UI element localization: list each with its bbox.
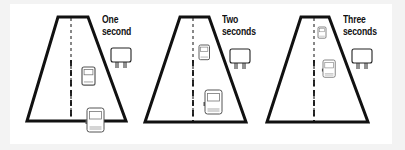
label-line-2: second <box>102 25 131 37</box>
label-line-2: seconds <box>222 25 256 37</box>
roadside-sign-icon <box>230 49 250 69</box>
lead-vehicle-icon <box>199 45 210 60</box>
following-vehicle-icon <box>86 108 105 132</box>
following-vehicle-icon <box>204 90 223 114</box>
label-line-1: Three <box>343 13 377 25</box>
lead-vehicle-icon <box>82 67 95 85</box>
label-line-1: Two <box>222 13 256 25</box>
roadside-sign-icon <box>111 48 131 68</box>
roadside-sign-icon <box>352 49 372 69</box>
lead-vehicle-icon <box>318 27 326 38</box>
label-line-1: One <box>102 13 131 25</box>
panel-label-one-second: One second <box>102 13 131 37</box>
label-line-2: seconds <box>343 25 377 37</box>
following-vehicle-icon <box>322 60 335 77</box>
panel-label-two-seconds: Two seconds <box>222 13 256 37</box>
panel-label-three-seconds: Three seconds <box>343 13 377 37</box>
